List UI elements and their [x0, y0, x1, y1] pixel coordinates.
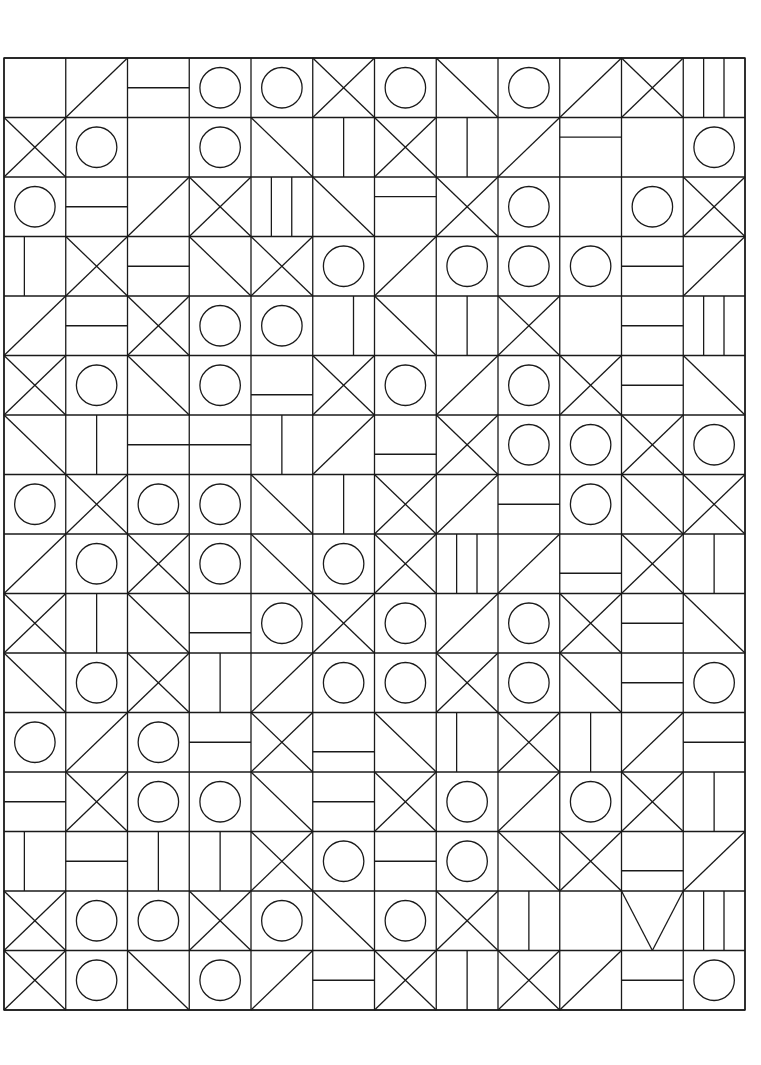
diagonal-tlbr-motif [436, 58, 498, 118]
tile-cell [323, 663, 363, 703]
tile-cell [622, 534, 684, 594]
tile-cell [447, 782, 487, 822]
tile-cell [560, 653, 622, 713]
tile-cell [66, 772, 128, 832]
tile-cell [251, 832, 313, 892]
tile-cell [509, 603, 549, 643]
circle-motif [200, 127, 240, 167]
diagonal-trbl-motif [128, 177, 190, 237]
circle-motif [570, 246, 610, 286]
tile-cell [66, 475, 128, 535]
circle-motif [570, 425, 610, 465]
circle-motif [509, 68, 549, 108]
tile-cell [76, 544, 116, 584]
circle-motif [76, 960, 116, 1000]
tile-cell [509, 68, 549, 108]
tile-cell [251, 713, 313, 773]
tile-cell [128, 594, 190, 654]
tile-cell [313, 177, 375, 237]
tile-cell [622, 475, 684, 535]
diagonal-tlbr-motif [313, 891, 375, 951]
circle-motif [76, 663, 116, 703]
tile-cell [262, 603, 302, 643]
tile-cell [436, 415, 498, 475]
tile-cell [385, 603, 425, 643]
tile-cell [683, 177, 745, 237]
tile-cell [313, 891, 375, 951]
tile-cell [560, 951, 622, 1011]
tile-cell [509, 187, 549, 227]
tile-cell [15, 722, 55, 762]
circle-motif [385, 901, 425, 941]
tile-cell [498, 713, 560, 773]
circle-motif [138, 484, 178, 524]
tile-cell [498, 951, 560, 1011]
diagonal-trbl-motif [683, 832, 745, 892]
circle-motif [15, 187, 55, 227]
tile-cell [570, 484, 610, 524]
circle-motif [15, 484, 55, 524]
tile-cell [694, 425, 734, 465]
circle-motif [76, 127, 116, 167]
tile-cell [313, 58, 375, 118]
tile-cell [4, 653, 66, 713]
tile-cell [200, 484, 240, 524]
circle-motif [447, 841, 487, 881]
diagonal-trbl-motif [4, 296, 66, 356]
tile-cell [251, 951, 313, 1011]
circle-motif [509, 663, 549, 703]
tile-cell [4, 118, 66, 178]
diagonal-trbl-motif [498, 772, 560, 832]
tile-cell [66, 58, 128, 118]
tile-cell [313, 356, 375, 416]
diagonal-tlbr-motif [128, 594, 190, 654]
tile-cell [436, 177, 498, 237]
circle-motif [200, 544, 240, 584]
diagonal-trbl-motif [251, 653, 313, 713]
tile-cell [4, 534, 66, 594]
tile-cell [447, 841, 487, 881]
circle-motif [694, 425, 734, 465]
diagonal-tlbr-motif [560, 653, 622, 713]
tile-cell [128, 356, 190, 416]
diagonal-tlbr-motif [622, 475, 684, 535]
tile-cell [498, 832, 560, 892]
tile-cell [570, 782, 610, 822]
circle-motif [138, 722, 178, 762]
tile-cell [251, 653, 313, 713]
tile-cell [251, 118, 313, 178]
tile-cell [251, 475, 313, 535]
tile-cell [128, 951, 190, 1011]
circle-motif [509, 187, 549, 227]
circle-motif [323, 663, 363, 703]
tile-cell [251, 534, 313, 594]
circle-motif [694, 663, 734, 703]
tile-cell [189, 177, 251, 237]
tile-cell [128, 653, 190, 713]
tile-cell [189, 891, 251, 951]
artwork-canvas [0, 0, 761, 1065]
tile-cell [375, 237, 437, 297]
tile-cell [189, 237, 251, 297]
tile-cell [128, 296, 190, 356]
diagonal-tlbr-motif [251, 534, 313, 594]
tile-cell [622, 772, 684, 832]
circle-motif [385, 365, 425, 405]
tile-cell [262, 306, 302, 346]
tile-cell [323, 841, 363, 881]
diagonal-trbl-motif [683, 237, 745, 297]
tile-cell [200, 306, 240, 346]
tile-cell [375, 475, 437, 535]
tile-cell [560, 58, 622, 118]
tile-cell [323, 246, 363, 286]
tile-cell [622, 713, 684, 773]
tile-cell [570, 425, 610, 465]
tile-cell [498, 296, 560, 356]
tile-cell [385, 365, 425, 405]
diagonal-tlbr-motif [375, 296, 437, 356]
geometric-grid [0, 0, 761, 1065]
tile-cell [436, 653, 498, 713]
circle-motif [76, 365, 116, 405]
diagonal-trbl-motif [436, 356, 498, 416]
tile-cell [694, 960, 734, 1000]
